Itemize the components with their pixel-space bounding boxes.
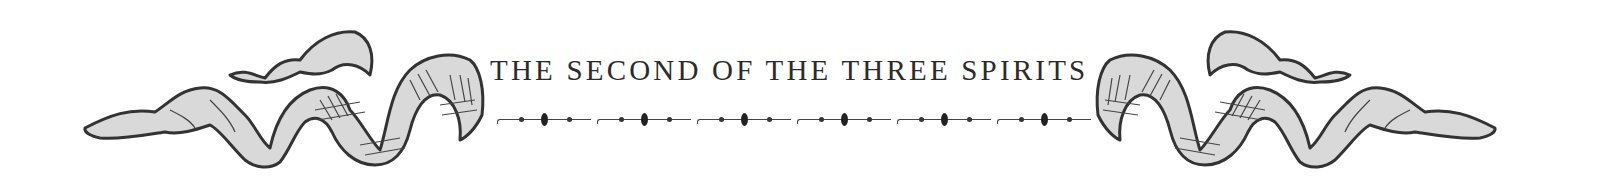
page-title: THE SECOND OF THE THREE SPIRITS (490, 54, 1100, 87)
ribbon-ornament-right-icon (1090, 20, 1510, 185)
divider-segment (995, 112, 1095, 128)
decorative-divider (495, 112, 1095, 128)
divider-segment (795, 112, 895, 128)
divider-segment (895, 112, 995, 128)
divider-segment (495, 112, 595, 128)
ribbon-ornament-left-icon (70, 20, 490, 185)
divider-segment (595, 112, 695, 128)
divider-segment (695, 112, 795, 128)
